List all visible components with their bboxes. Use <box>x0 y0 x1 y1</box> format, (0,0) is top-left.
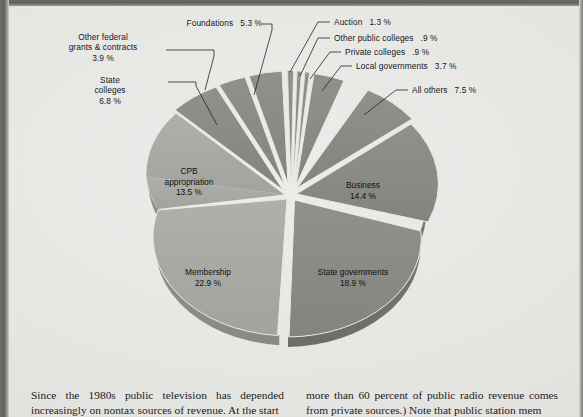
callout-all-others-percent: 7.5 % <box>455 85 477 95</box>
caption-block: Since the 1980s public television has de… <box>0 372 583 417</box>
pie-slices <box>146 71 438 338</box>
callout-foundations: Foundations5.3 % <box>150 18 262 28</box>
callout-other-federal-line2: grants & contracts <box>69 42 138 52</box>
leader-auction <box>290 22 330 72</box>
callout-auction: Auction1.3 % <box>334 17 391 27</box>
callout-auction-percent: 1.3 % <box>369 17 391 27</box>
pie-chart-figure: Foundations5.3 % Other federalgrants & c… <box>0 0 583 372</box>
scan-edge-right <box>579 0 583 417</box>
callout-other-public-colleges-name: Other public colleges <box>334 33 414 43</box>
callout-foundations-name: Foundations <box>187 18 234 28</box>
callout-other-federal: Other federalgrants & contracts3.9 % <box>40 32 166 63</box>
callout-local-governments-name: Local governments <box>356 61 428 71</box>
callout-all-others: All others7.5 % <box>412 85 476 95</box>
callout-foundations-percent: 5.3 % <box>240 18 262 28</box>
slice-label-business: Business14.4 % <box>323 180 403 201</box>
callout-local-governments: Local governments3.7 % <box>356 61 457 71</box>
callout-state-colleges-line2: colleges <box>94 85 125 95</box>
callout-other-public-colleges: Other public colleges.9 % <box>334 33 438 43</box>
caption-column-left: Since the 1980s public television has de… <box>31 388 284 417</box>
scan-edge-top <box>0 0 583 6</box>
leader-other-public <box>300 38 330 76</box>
slice-label-membership-name: Membership <box>185 267 231 277</box>
slice-label-cpb-appropriation: CPBappropriation13.5 % <box>143 166 235 198</box>
slice-label-state-governments-percent: 18.9 % <box>340 278 366 288</box>
callout-all-others-name: All others <box>412 85 448 95</box>
leader-other-federal <box>166 50 214 90</box>
slice-label-state-governments: State governments18.9 % <box>293 267 413 288</box>
slice-label-membership: Membership22.9 % <box>160 267 256 288</box>
callout-other-federal-line1: Other federal <box>78 32 128 42</box>
scanned-page: Foundations5.3 % Other federalgrants & c… <box>0 0 583 417</box>
scan-edge-left <box>0 0 9 417</box>
callout-other-public-colleges-percent: .9 % <box>421 33 438 43</box>
callout-state-colleges: Statecolleges6.8 % <box>52 75 168 106</box>
slice-label-business-percent: 14.4 % <box>350 191 376 201</box>
slice-label-membership-percent: 22.9 % <box>195 278 221 288</box>
callout-private-colleges-percent: .9 % <box>412 47 429 57</box>
callout-state-colleges-percent: 6.8 % <box>99 96 121 106</box>
slice-label-cpb-line2: appropriation <box>165 177 214 187</box>
slice-label-cpb-line1: CPB <box>180 166 197 176</box>
callout-private-colleges: Private colleges.9 % <box>345 47 429 57</box>
callout-other-federal-percent: 3.9 % <box>92 53 114 63</box>
slice-label-cpb-percent: 13.5 % <box>176 187 202 197</box>
slice-auction <box>288 71 294 184</box>
caption-column-right: more than 60 percent of public radio rev… <box>306 388 558 417</box>
callout-auction-name: Auction <box>334 17 362 27</box>
callout-local-governments-percent: 3.7 % <box>435 61 457 71</box>
slice-label-state-governments-name: State governments <box>318 267 388 277</box>
callout-private-colleges-name: Private colleges <box>345 47 405 57</box>
slice-label-business-name: Business <box>346 180 380 190</box>
callout-state-colleges-line1: State <box>100 75 120 85</box>
